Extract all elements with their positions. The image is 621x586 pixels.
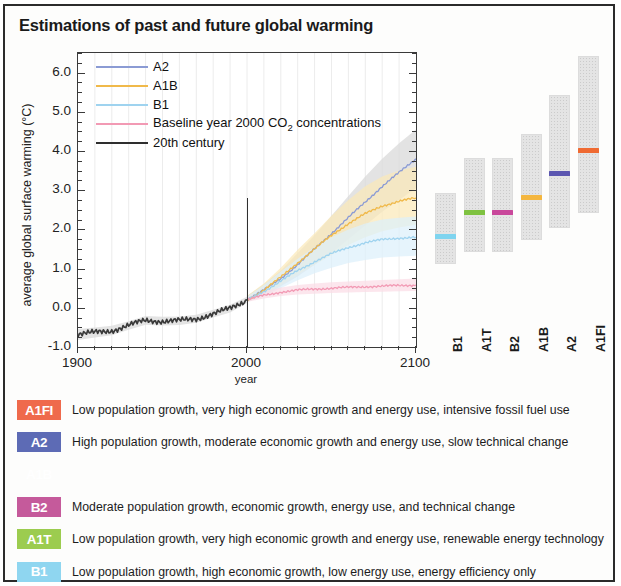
x-tick-mark [331,346,332,350]
y-tick-mark [78,73,85,74]
y-tick-mark [409,229,416,230]
x-tick-mark [178,346,179,350]
y-tick-mark [412,171,416,172]
best-estimate-marker [521,195,542,200]
y-tick-mark [412,53,416,54]
y-tick-mark [412,327,416,328]
x-tick-mark [212,346,213,350]
y-tick-label: 4.0 [29,142,71,157]
x-tick-mark [398,346,399,350]
x-tick-mark [195,346,196,350]
page-title: Estimations of past and future global wa… [19,16,373,35]
x-tick-mark [77,346,78,353]
range-bar-a1fi [578,52,599,346]
x-tick-mark [162,346,163,350]
y-tick-mark [78,298,82,299]
y-tick-mark [412,278,416,279]
legend-swatch [96,104,148,106]
y-tick-mark [78,200,82,201]
y-tick-mark [78,190,85,191]
legend-item: A1B [96,76,381,95]
scenario-badge: A1T [17,529,61,549]
x-tick-mark [145,346,146,350]
y-tick-mark [409,112,416,113]
y-tick-mark [78,63,82,64]
range-bar-a2 [549,52,570,346]
y-tick-mark [412,63,416,64]
y-tick-mark [412,82,416,83]
scenario-badge: B2 [17,497,61,517]
range-bar-extent [464,158,485,252]
scenario-description: High population growth, moderate economi… [72,435,568,449]
y-tick-mark [78,122,82,123]
x-tick-mark [246,346,247,353]
x-tick-mark [280,346,281,350]
x-tick-mark [381,346,382,350]
legend-swatch [96,85,148,87]
legend-label: A2 [153,59,169,74]
y-tick-mark [78,141,82,142]
y-tick-mark [412,102,416,103]
y-tick-mark [412,141,416,142]
y-tick-mark [78,180,82,181]
y-tick-mark [78,210,82,211]
x-tick-mark [128,346,129,350]
y-tick-mark [412,210,416,211]
y-tick-mark [412,318,416,319]
legend-label: A1B [153,78,178,93]
y-tick-mark [412,259,416,260]
scenario-badge: B1 [17,562,61,582]
scenario-badge: A1B [17,465,61,485]
range-bar-a1t [464,52,485,346]
scenario-row: A1FILow population growth, very high eco… [5,394,617,426]
y-tick-label: -1.0 [29,338,71,353]
legend-item: A2 [96,57,381,76]
figure-frame: Estimations of past and future global wa… [3,4,615,582]
year-2000-divider [247,198,248,347]
x-tick-mark [94,346,95,350]
legend-label: Baseline year 2000 CO2 concentrations [153,115,381,133]
y-tick-label: 0.0 [29,299,71,314]
y-tick-mark [409,190,416,191]
x-tick-mark [364,346,365,350]
y-axis-ticks: -1.00.01.02.03.04.05.06.0 [19,40,71,390]
scenario-row: A1B [5,459,617,491]
y-tick-mark [78,327,82,328]
y-tick-mark [78,308,85,309]
y-tick-mark [412,239,416,240]
x-tick-mark [347,346,348,350]
y-tick-mark [78,288,82,289]
y-tick-label: 6.0 [29,64,71,79]
y-tick-mark [78,151,85,152]
legend-item: B1 [96,95,381,114]
scenario-row: A2High population growth, moderate econo… [5,426,617,458]
legend-item: 20th century [96,133,381,152]
scenario-descriptions: A1FILow population growth, very high eco… [5,394,617,586]
y-tick-mark [78,171,82,172]
y-tick-mark [412,131,416,132]
legend-swatch [96,66,148,68]
scenario-badge: A1FI [17,400,61,420]
y-tick-mark [78,112,85,113]
y-tick-mark [78,278,82,279]
x-tick-mark [415,346,416,353]
range-bar-b1 [435,52,456,346]
y-tick-mark [78,53,82,54]
scenario-badge: A2 [17,432,61,452]
y-tick-mark [78,347,85,348]
y-tick-mark [78,161,82,162]
legend-item: Baseline year 2000 CO2 concentrations [96,114,381,133]
scenario-description: Low population growth, high economic gro… [72,565,536,579]
y-tick-mark [409,308,416,309]
y-tick-mark [412,92,416,93]
x-tick-label: 2100 [400,355,430,370]
y-tick-mark [78,269,85,270]
y-tick-mark [78,318,82,319]
y-tick-mark [78,82,82,83]
y-tick-mark [409,151,416,152]
y-tick-mark [78,102,82,103]
x-tick-mark [229,346,230,350]
legend-swatch [96,142,148,144]
y-tick-label: 2.0 [29,220,71,235]
range-bar-extent [549,95,570,228]
